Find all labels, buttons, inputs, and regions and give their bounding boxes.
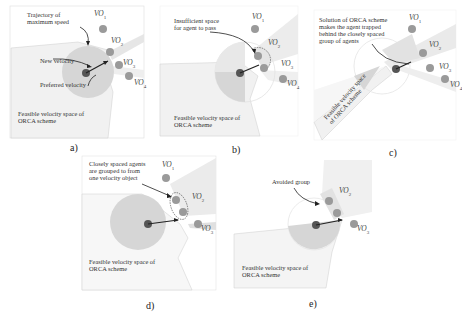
- annotation-feasible: Feasible velocity space of ORCA scheme: [174, 114, 240, 128]
- panel-d: Closely spaced agents are grouped to fro…: [80, 154, 230, 314]
- vo3-label: VO3: [201, 224, 213, 235]
- neighbor-agent: [426, 64, 434, 72]
- annotation-feasible: Feasible velocity space of ORCA scheme: [89, 258, 155, 272]
- neighbor-agent: [125, 72, 133, 80]
- panel-a: Trajectory of maximum speed New velocity…: [8, 4, 148, 154]
- vo3-label: VO3: [439, 62, 451, 73]
- vo1-label: VO1: [162, 160, 174, 171]
- neighbor-agent: [254, 52, 262, 60]
- caption-b: b): [232, 144, 240, 155]
- panel-b: Insufficient space for agent to pass Fea…: [160, 4, 300, 154]
- velocity-disc: [110, 194, 166, 250]
- vo1-label: VO1: [252, 12, 264, 23]
- vo3-label: VO3: [357, 224, 369, 235]
- neighbor-agent: [441, 75, 449, 83]
- neighbor-agent: [172, 196, 180, 204]
- caption-a: a): [70, 142, 78, 153]
- neighbor-agent: [325, 197, 333, 205]
- annotation-feasible: Feasible velocity space of ORCA scheme: [18, 110, 84, 124]
- neighbor-agent: [251, 25, 259, 33]
- annotation-feasible: Feasible velocity space of ORCA scheme: [242, 264, 308, 278]
- vo3-label: VO3: [281, 59, 293, 70]
- annotation-avoided: Avoided group: [272, 178, 310, 185]
- neighbor-agent: [115, 61, 123, 69]
- neighbor-agent: [162, 174, 170, 182]
- vo2-label: VO2: [192, 192, 204, 203]
- caption-e: e): [309, 298, 317, 309]
- neighbor-agent: [106, 48, 114, 56]
- vo4-label: VO4: [287, 79, 299, 90]
- neighbor-agent: [419, 49, 427, 57]
- annotation-insufficient: Insufficient space for agent to pass: [174, 17, 219, 31]
- vo2-label: VO2: [268, 38, 280, 49]
- panel-e: Avoided group Feasible velocity space of…: [232, 160, 392, 315]
- vo1-label: VO1: [409, 13, 421, 24]
- annotation-preferred-velocity: Preferred velocity: [40, 81, 86, 88]
- vo4-label: VO4: [134, 78, 146, 89]
- vo1-label: VO1: [94, 9, 106, 20]
- neighbor-agent: [99, 25, 107, 33]
- vo4-label: VO4: [450, 80, 462, 91]
- neighbor-agent: [333, 209, 341, 217]
- neighbor-agent: [179, 208, 187, 216]
- vo2-label: VO2: [111, 36, 123, 47]
- neighbor-agent: [408, 25, 416, 33]
- annotation-solution: Solution of ORCA scheme makes the agent …: [319, 16, 387, 44]
- annotation-new-velocity: New velocity: [40, 57, 74, 64]
- caption-c: c): [389, 147, 397, 158]
- caption-d: d): [146, 300, 154, 311]
- neighbor-agent: [260, 64, 268, 72]
- neighbor-agent: [279, 75, 287, 83]
- annotation-trajectory: Trajectory of maximum speed: [27, 11, 69, 25]
- annotation-grouped: Closely spaced agents are grouped to fro…: [89, 160, 145, 181]
- vo2-label: VO2: [429, 40, 441, 51]
- panel-c: Solution of ORCA scheme makes the agent …: [312, 4, 460, 154]
- vo2-label: VO2: [339, 186, 351, 197]
- vo3-label: VO3: [123, 58, 135, 69]
